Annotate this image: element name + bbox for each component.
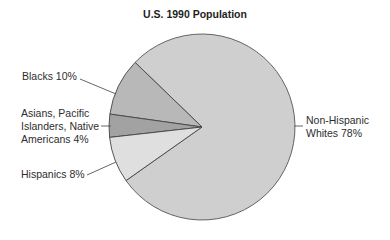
label-asians-line-1: Asians, Pacific: [21, 107, 99, 120]
label-asians: Asians, Pacific Islanders, Native Americ…: [21, 107, 99, 146]
label-non-hispanic-whites: Non-Hispanic Whites 78%: [306, 114, 369, 140]
label-whites-line-2: Whites 78%: [306, 127, 369, 140]
label-whites-line-1: Non-Hispanic: [306, 114, 369, 127]
leader-line-blacks: [80, 79, 116, 94]
label-hispanics: Hispanics 8%: [21, 168, 85, 181]
label-asians-line-3: Americans 4%: [21, 133, 99, 146]
label-asians-line-2: Islanders, Native: [21, 120, 99, 133]
label-blacks: Blacks 10%: [22, 70, 77, 83]
leader-line-hispanics: [87, 162, 116, 175]
